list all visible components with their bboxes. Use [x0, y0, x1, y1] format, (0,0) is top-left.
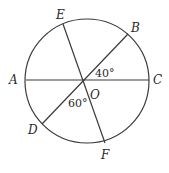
label-a: A	[8, 73, 18, 87]
label-b: B	[130, 21, 140, 35]
circle	[25, 19, 149, 143]
angle-label-dof: 60°	[68, 97, 88, 110]
segment-ef	[63, 24, 105, 143]
label-f: F	[100, 148, 110, 162]
label-e: E	[55, 8, 65, 22]
angle-label-boc: 40°	[95, 67, 115, 80]
label-c: C	[153, 73, 162, 87]
segment-bd	[42, 34, 128, 124]
label-o: O	[90, 88, 100, 102]
label-d: D	[27, 123, 38, 137]
circle-diagram: A C B E D F O 40° 60°	[0, 0, 169, 173]
